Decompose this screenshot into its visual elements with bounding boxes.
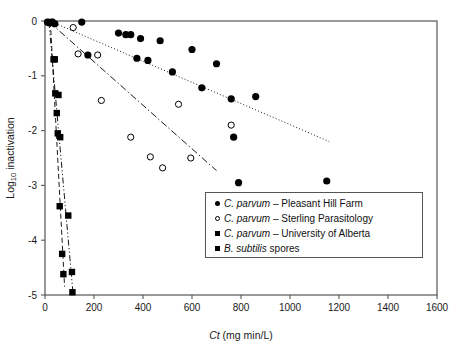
legend-species-name: C. parvum bbox=[224, 228, 270, 239]
data-point-filled-circle bbox=[157, 37, 164, 44]
legend-item: B. subtilis spores bbox=[210, 241, 416, 256]
data-point-open-circle bbox=[160, 165, 166, 171]
legend-source-name: – Sterling Parasitology bbox=[270, 213, 373, 224]
x-axis-title: Ct (mg min/L) bbox=[209, 329, 273, 341]
legend-species-name: B. subtilis bbox=[224, 243, 267, 254]
y-tick-label: -4 bbox=[28, 235, 37, 246]
data-point-filled-square bbox=[54, 110, 60, 116]
chart-figure: 020040060080010001200140016000-1-2-3-4-5… bbox=[0, 0, 459, 343]
data-point-filled-square bbox=[69, 269, 75, 275]
data-point-filled-circle bbox=[133, 55, 140, 62]
data-point-open-circle bbox=[147, 154, 153, 160]
data-point-filled-square bbox=[60, 271, 66, 277]
data-point-filled-circle bbox=[323, 177, 330, 184]
x-tick-label: 200 bbox=[86, 302, 103, 313]
data-point-filled-square bbox=[59, 251, 65, 257]
y-tick-label: -3 bbox=[28, 180, 37, 191]
data-point-filled-square bbox=[57, 134, 63, 140]
data-point-open-circle bbox=[128, 134, 134, 140]
scatter-plot-svg: 020040060080010001200140016000-1-2-3-4-5… bbox=[0, 0, 459, 343]
dashdot-trend-sterling bbox=[49, 22, 216, 171]
legend-item-label: C. parvum – Sterling Parasitology bbox=[224, 211, 373, 226]
legend-species-name: C. parvum bbox=[224, 198, 270, 209]
data-point-open-circle bbox=[188, 155, 194, 161]
data-point-filled-circle bbox=[252, 93, 259, 100]
data-point-filled-circle bbox=[198, 84, 205, 91]
legend-item: C. parvum – Sterling Parasitology bbox=[210, 211, 416, 226]
filled-square-icon bbox=[210, 231, 224, 236]
legend-source-name: spores bbox=[267, 243, 300, 254]
x-tick-label: 1200 bbox=[328, 302, 351, 313]
data-point-filled-circle bbox=[228, 95, 235, 102]
data-point-filled-square bbox=[55, 92, 61, 98]
data-point-filled-square bbox=[52, 56, 58, 62]
data-point-filled-square bbox=[47, 19, 53, 25]
data-point-filled-circle bbox=[144, 57, 151, 64]
data-point-filled-square bbox=[65, 212, 71, 218]
legend-item-label: B. subtilis spores bbox=[224, 241, 300, 256]
chart-legend: C. parvum – Pleasant Hill Farm C. parvum… bbox=[205, 192, 423, 258]
data-point-open-circle bbox=[75, 51, 81, 57]
data-point-filled-circle bbox=[169, 68, 176, 75]
data-point-filled-square bbox=[69, 289, 75, 295]
data-point-filled-circle bbox=[230, 134, 237, 141]
y-tick-label: -1 bbox=[28, 70, 37, 81]
data-point-filled-circle bbox=[78, 18, 85, 25]
legend-source-name: – Pleasant Hill Farm bbox=[270, 198, 363, 209]
dotted-trend-pleasant-hill bbox=[52, 22, 329, 141]
filled-square-icon bbox=[210, 246, 224, 251]
data-point-open-circle bbox=[70, 24, 76, 30]
legend-species-name: C. parvum bbox=[224, 213, 270, 224]
legend-item-label: C. parvum – Pleasant Hill Farm bbox=[224, 196, 363, 211]
y-tick-label: -5 bbox=[28, 290, 37, 301]
x-tick-label: 400 bbox=[135, 302, 152, 313]
legend-source-name: – University of Alberta bbox=[270, 228, 370, 239]
data-point-open-circle bbox=[175, 101, 181, 107]
data-point-filled-circle bbox=[188, 46, 195, 53]
data-point-filled-circle bbox=[235, 179, 242, 186]
y-axis-title: Log10 inactivation bbox=[4, 117, 18, 198]
filled-circle-icon bbox=[210, 201, 224, 206]
data-point-filled-square bbox=[57, 203, 63, 209]
data-point-filled-circle bbox=[127, 31, 134, 38]
x-tick-label: 0 bbox=[42, 302, 48, 313]
legend-item-label: C. parvum – University of Alberta bbox=[224, 226, 370, 241]
data-point-filled-circle bbox=[213, 60, 220, 67]
data-point-filled-circle bbox=[84, 51, 91, 58]
y-tick-label: 0 bbox=[31, 16, 37, 27]
data-point-open-circle bbox=[95, 52, 101, 58]
legend-item: C. parvum – Pleasant Hill Farm bbox=[210, 196, 416, 211]
data-point-filled-circle bbox=[137, 35, 144, 42]
x-tick-label: 1600 bbox=[426, 302, 449, 313]
x-tick-label: 600 bbox=[184, 302, 201, 313]
x-tick-label: 1000 bbox=[279, 302, 302, 313]
x-tick-label: 800 bbox=[233, 302, 250, 313]
legend-item: C. parvum – University of Alberta bbox=[210, 226, 416, 241]
y-tick-label: -2 bbox=[28, 125, 37, 136]
data-point-open-circle bbox=[228, 122, 234, 128]
data-point-open-circle bbox=[98, 97, 104, 103]
data-point-filled-circle bbox=[115, 29, 122, 36]
open-circle-icon bbox=[210, 216, 224, 221]
x-tick-label: 1400 bbox=[377, 302, 400, 313]
